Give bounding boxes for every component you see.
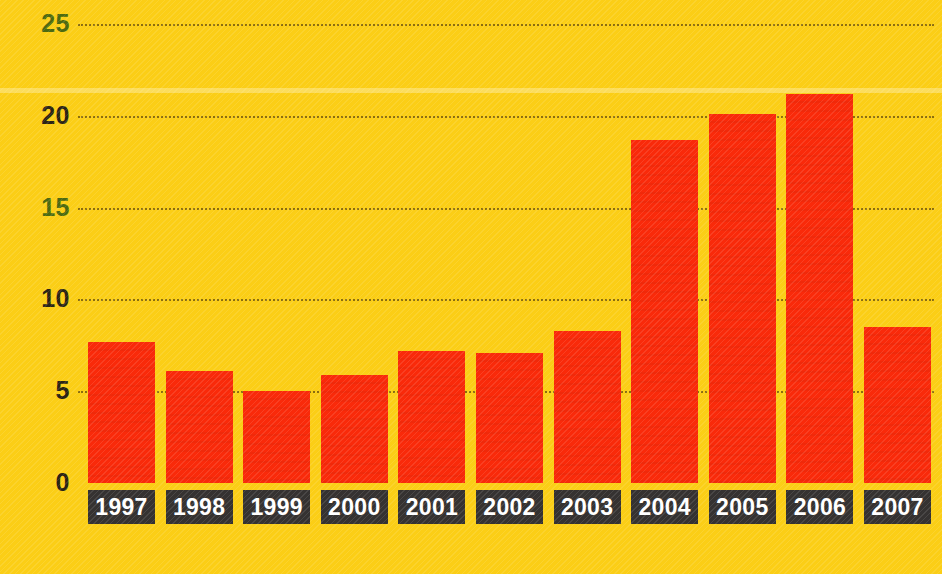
- x-axis-tick-label: 2007: [864, 490, 931, 524]
- x-axis-tick-label: 2003: [554, 490, 621, 524]
- y-axis-tick-label: 10: [22, 286, 70, 311]
- y-axis-tick-label: 25: [22, 11, 70, 36]
- bar: [166, 371, 233, 483]
- y-axis-tick-label: 20: [22, 103, 70, 128]
- bar-chart: 2520151050 19971998199920002001200220032…: [0, 0, 942, 574]
- x-axis-tick-label: 2002: [476, 490, 543, 524]
- bar: [321, 375, 388, 483]
- gridline: [78, 24, 934, 26]
- x-axis-tick-label: 2006: [786, 490, 853, 524]
- bar: [864, 327, 931, 483]
- bar: [709, 114, 776, 483]
- plot-area: 2520151050 19971998199920002001200220032…: [0, 0, 942, 574]
- x-axis-tick-label: 2005: [709, 490, 776, 524]
- x-axis-tick-label: 2004: [631, 490, 698, 524]
- x-axis-tick-label: 1999: [243, 490, 310, 524]
- y-axis-tick-label: 0: [22, 470, 70, 495]
- bar: [631, 140, 698, 483]
- bar: [398, 351, 465, 483]
- bar: [554, 331, 621, 483]
- y-axis-tick-label: 15: [22, 195, 70, 220]
- x-axis-tick-label: 2001: [398, 490, 465, 524]
- bar: [786, 94, 853, 483]
- y-axis-tick-label: 5: [22, 378, 70, 403]
- bar: [88, 342, 155, 483]
- bar: [476, 353, 543, 483]
- x-axis-tick-label: 1997: [88, 490, 155, 524]
- x-axis-tick-label: 1998: [166, 490, 233, 524]
- bar: [243, 391, 310, 483]
- x-axis-tick-label: 2000: [321, 490, 388, 524]
